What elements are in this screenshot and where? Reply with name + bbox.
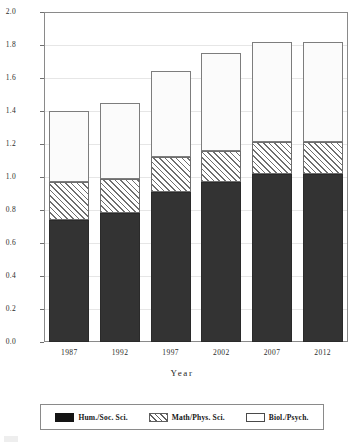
bar-1997 (151, 12, 191, 342)
legend-swatch-math-phys-sci (149, 413, 168, 422)
x-axis-title: Year (0, 368, 364, 378)
y-tick-label: 0.2 (0, 305, 16, 313)
legend-label-math-phys-sci: Math/Phys. Sci. (172, 413, 225, 422)
bar-segment-biol-2007 (252, 42, 292, 143)
y-tick-label: 0.4 (0, 272, 16, 280)
chart-legend: Hum./Soc. Sci. Math/Phys. Sci. Biol./Psy… (40, 404, 324, 430)
legend-label-hum-soc-sci: Hum./Soc. Sci. (78, 413, 127, 422)
bar-segment-biol-1987 (49, 111, 89, 182)
bars-layer (44, 12, 348, 342)
bar-1987 (49, 12, 89, 342)
y-tick-label: 1.8 (0, 41, 16, 49)
y-tick-label: 1.6 (0, 74, 16, 82)
legend-item-biol-psych: Biol./Psych. (246, 413, 309, 422)
y-tick-label: 0.6 (0, 239, 16, 247)
bar-2002 (201, 12, 241, 342)
bar-segment-hum-1997 (151, 192, 191, 342)
y-tick-label: 1.2 (0, 140, 16, 148)
bar-segment-biol-2002 (201, 53, 241, 150)
legend-swatch-biol-psych (246, 413, 265, 422)
y-tick-label: 0.8 (0, 206, 16, 214)
bar-segment-biol-1992 (100, 103, 140, 179)
y-tick-label: 0.0 (0, 338, 16, 346)
bar-2012 (303, 12, 343, 342)
page-artifact (4, 436, 18, 442)
bar-segment-math-2002 (201, 151, 241, 182)
bar-2007 (252, 12, 292, 342)
bar-segment-hum-2012 (303, 174, 343, 342)
bar-segment-math-2007 (252, 142, 292, 173)
y-tick-label: 1.0 (0, 173, 16, 181)
y-tick-mark (40, 342, 44, 343)
chart-root: 0.00.20.40.60.81.01.21.41.61.82.0 198719… (0, 0, 364, 445)
bar-segment-biol-2012 (303, 42, 343, 143)
y-tick-label: 1.4 (0, 107, 16, 115)
legend-item-math-phys-sci: Math/Phys. Sci. (149, 413, 225, 422)
bar-segment-hum-1992 (100, 213, 140, 342)
bar-segment-hum-1987 (49, 220, 89, 342)
x-tick-label-2012: 2012 (293, 348, 353, 357)
legend-swatch-hum-soc-sci (55, 413, 74, 422)
y-tick-label: 2.0 (0, 8, 16, 16)
legend-item-hum-soc-sci: Hum./Soc. Sci. (55, 413, 127, 422)
bar-segment-biol-1997 (151, 71, 191, 157)
bar-segment-math-1992 (100, 179, 140, 214)
bar-1992 (100, 12, 140, 342)
bar-segment-math-2012 (303, 142, 343, 173)
bar-segment-math-1997 (151, 157, 191, 192)
bar-segment-hum-2007 (252, 174, 292, 342)
bar-segment-math-1987 (49, 182, 89, 220)
legend-label-biol-psych: Biol./Psych. (269, 413, 309, 422)
bar-segment-hum-2002 (201, 182, 241, 342)
